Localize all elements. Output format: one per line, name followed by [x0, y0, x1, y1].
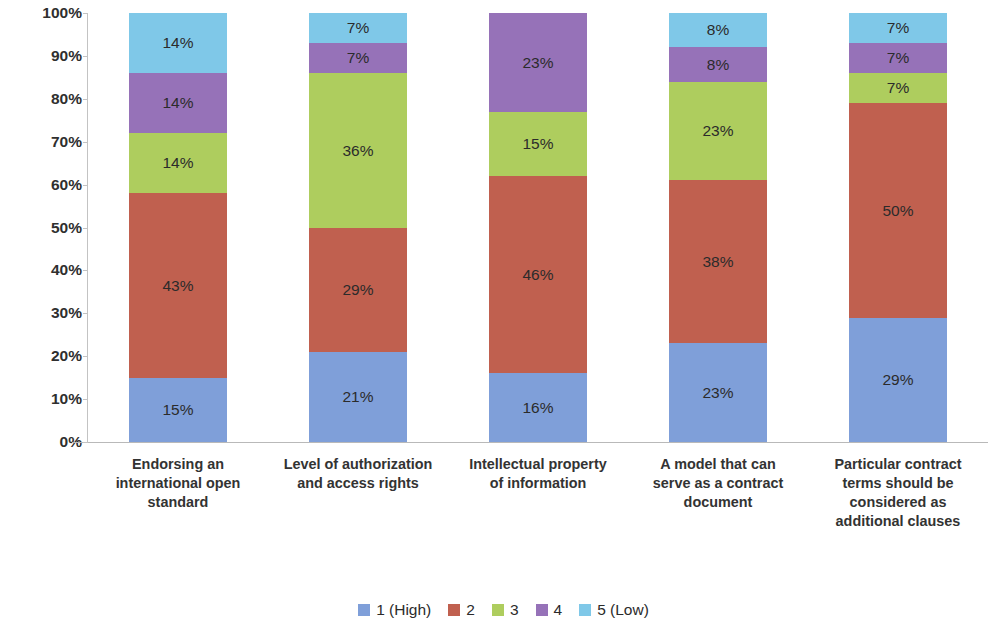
y-axis-tick-mark: [83, 356, 88, 357]
bar-stack: 21%29%36%7%7%: [309, 13, 407, 442]
stacked-bar-chart: 0%10%20%30%40%50%60%70%80%90%100% 15%43%…: [0, 0, 1007, 630]
y-axis-tick-mark: [83, 142, 88, 143]
bar-segment: 7%: [849, 43, 947, 73]
bar-segment-value-label: 29%: [342, 282, 373, 298]
legend-item[interactable]: 2: [448, 602, 475, 618]
y-axis-tick-mark: [83, 228, 88, 229]
bar-segment: 16%: [489, 373, 587, 442]
bar-segment-value-label: 16%: [522, 400, 553, 416]
bar-segment: 7%: [309, 43, 407, 73]
bar-stack: 16%46%15%23%: [489, 13, 587, 442]
bar-segment-value-label: 7%: [887, 50, 909, 66]
bar-segment-value-label: 50%: [882, 203, 913, 219]
legend-label: 4: [554, 602, 563, 618]
bar-segment-value-label: 14%: [162, 95, 193, 111]
x-axis-category-label: Endorsing an international open standard: [90, 455, 266, 512]
bar-group: 23%38%23%8%8%: [669, 13, 767, 442]
y-axis-tick-label: 10%: [4, 391, 82, 407]
legend-color-swatch-icon: [358, 604, 370, 616]
y-axis-tick-label: 70%: [4, 134, 82, 150]
legend-color-swatch-icon: [579, 604, 591, 616]
y-axis-tick-mark: [83, 442, 88, 443]
bar-segment-value-label: 23%: [522, 55, 553, 71]
x-axis-line: [72, 442, 988, 443]
bar-segment: 8%: [669, 13, 767, 47]
y-axis-tick-label: 40%: [4, 263, 82, 279]
x-axis-category-label: Level of authorization and access rights: [270, 455, 446, 493]
y-axis-tick-label: 30%: [4, 306, 82, 322]
x-axis-category-label: Intellectual property of information: [450, 455, 626, 493]
bar-group: 29%50%7%7%7%: [849, 13, 947, 442]
bar-segment-value-label: 7%: [887, 20, 909, 36]
legend-label: 1 (High): [376, 602, 431, 618]
bar-segment-value-label: 36%: [342, 143, 373, 159]
y-axis-tick-mark: [83, 313, 88, 314]
bar-segment: 50%: [849, 103, 947, 318]
legend-label: 3: [510, 602, 519, 618]
bar-segment-value-label: 14%: [162, 35, 193, 51]
bar-segment-value-label: 29%: [882, 372, 913, 388]
bar-segment: 29%: [849, 318, 947, 442]
bar-segment-value-label: 7%: [887, 80, 909, 96]
chart-legend: 1 (High)2345 (Low): [0, 602, 1007, 618]
bar-segment: 7%: [309, 13, 407, 43]
bar-segment: 14%: [129, 73, 227, 133]
y-axis-tick-label: 20%: [4, 348, 82, 364]
bar-segment: 15%: [129, 378, 227, 442]
bar-segment: 23%: [669, 343, 767, 442]
y-axis-tick-mark: [83, 270, 88, 271]
y-axis-tick-label: 60%: [4, 177, 82, 193]
y-axis-tick-mark: [83, 13, 88, 14]
y-axis-tick-label: 50%: [4, 220, 82, 236]
legend-color-swatch-icon: [448, 604, 460, 616]
y-axis-tick-labels: 0%10%20%30%40%50%60%70%80%90%100%: [0, 0, 82, 630]
bar-segment: 8%: [669, 47, 767, 81]
bar-segment-value-label: 23%: [702, 385, 733, 401]
legend-label: 5 (Low): [597, 602, 649, 618]
legend-item[interactable]: 4: [536, 602, 563, 618]
plot-area: 15%43%14%14%14%21%29%36%7%7%16%46%15%23%…: [88, 13, 988, 442]
bar-segment: 14%: [129, 133, 227, 193]
bar-segment: 43%: [129, 193, 227, 377]
bar-segment-value-label: 15%: [162, 402, 193, 418]
x-axis-category-labels: Endorsing an international open standard…: [88, 455, 988, 575]
bar-segment: 21%: [309, 352, 407, 442]
legend-item[interactable]: 1 (High): [358, 602, 431, 618]
bar-group: 16%46%15%23%: [489, 13, 587, 442]
legend-item[interactable]: 5 (Low): [579, 602, 649, 618]
bar-segment: 36%: [309, 73, 407, 227]
x-axis-category-label: A model that can serve as a contract doc…: [630, 455, 806, 512]
bar-segment: 15%: [489, 112, 587, 176]
y-axis-tick-mark: [83, 185, 88, 186]
bar-group: 15%43%14%14%14%: [129, 13, 227, 442]
bar-segment-value-label: 15%: [522, 136, 553, 152]
bar-group: 21%29%36%7%7%: [309, 13, 407, 442]
y-axis-tick-label: 0%: [4, 434, 82, 450]
bar-segment: 29%: [309, 228, 407, 352]
bar-segment-value-label: 38%: [702, 254, 733, 270]
bar-segment: 23%: [669, 82, 767, 181]
y-axis-tick-label: 100%: [4, 5, 82, 21]
y-axis-tick-mark: [83, 99, 88, 100]
bar-segment-value-label: 46%: [522, 267, 553, 283]
x-axis-category-label: Particular contract terms should be cons…: [810, 455, 986, 531]
legend-label: 2: [466, 602, 475, 618]
legend-item[interactable]: 3: [492, 602, 519, 618]
bar-segment-value-label: 7%: [347, 50, 369, 66]
y-axis-tick-label: 90%: [4, 48, 82, 64]
bar-segment: 7%: [849, 73, 947, 103]
legend-color-swatch-icon: [492, 604, 504, 616]
bar-segment: 46%: [489, 176, 587, 373]
bar-segment-value-label: 7%: [347, 20, 369, 36]
bar-segment: 7%: [849, 13, 947, 43]
bar-segment-value-label: 8%: [707, 57, 729, 73]
bar-segment: 14%: [129, 13, 227, 73]
bar-segment: 38%: [669, 180, 767, 343]
bar-segment-value-label: 43%: [162, 278, 193, 294]
y-axis-tick-mark: [83, 399, 88, 400]
bar-segment-value-label: 8%: [707, 22, 729, 38]
y-axis-tick-mark: [83, 56, 88, 57]
bar-segment: 23%: [489, 13, 587, 112]
legend-color-swatch-icon: [536, 604, 548, 616]
bar-segment-value-label: 23%: [702, 123, 733, 139]
